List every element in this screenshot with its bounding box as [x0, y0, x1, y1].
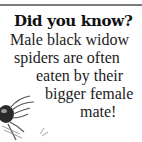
fact-line-5: mate!: [80, 103, 116, 121]
fact-line-1: Male black widow: [10, 31, 129, 49]
fact-line-2: spiders are often: [14, 49, 120, 67]
fact-line-3: eaten by their: [36, 67, 123, 85]
top-rule: [0, 4, 142, 6]
spider-icon: [0, 88, 60, 142]
fact-heading: Did you know?: [14, 12, 132, 30]
